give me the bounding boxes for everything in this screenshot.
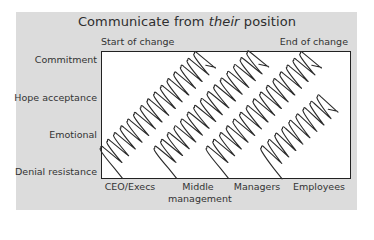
x-label-ceo-execs: CEO/Execs xyxy=(102,181,158,192)
coil-2 xyxy=(206,52,321,179)
x-label-managers: Managers xyxy=(232,181,282,192)
coil-1 xyxy=(154,51,269,179)
x-label-management: management xyxy=(168,193,228,204)
coil-3 xyxy=(261,95,338,179)
x-label-middle: Middle xyxy=(168,181,228,192)
x-label-employees: Employees xyxy=(290,181,348,192)
